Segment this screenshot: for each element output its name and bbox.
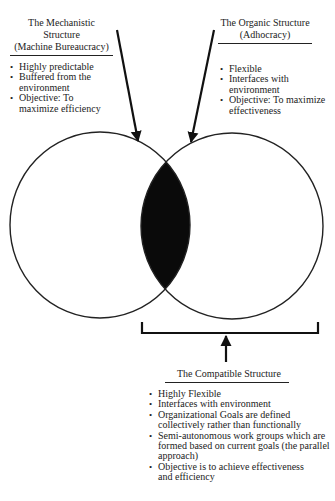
list-item: •Objective: To maximize efficiency — [10, 93, 110, 114]
compatible-title-text: The Compatible Structure — [177, 368, 279, 380]
bullet-icon: • — [149, 399, 152, 409]
list-item: •Buffered from the environment — [10, 72, 110, 93]
mechanistic-title: The Mechanistic Structure (Machine Burea… — [10, 17, 113, 56]
compatible-list: •Highly Flexible •Interfaces with enviro… — [149, 389, 335, 483]
list-item: •Objective: To maximize effectiveness — [220, 95, 333, 116]
bullet-icon: • — [10, 93, 13, 103]
bullet-icon: • — [10, 72, 13, 82]
bullet-icon: • — [149, 462, 152, 472]
list-item: •Semi-autonomous work groups which are f… — [149, 431, 330, 462]
list-item: •Organizational Goals are defined collec… — [149, 410, 316, 431]
bullet-icon: • — [149, 389, 152, 399]
list-item: •Interfaces with environment — [220, 74, 309, 95]
organic-arrow — [191, 30, 214, 142]
compatible-title-underline — [165, 382, 289, 383]
compatible-title: The Compatible Structure — [177, 368, 279, 383]
organic-title-line2: (Adhocracy) — [218, 29, 312, 41]
organic-list: •Flexible •Interfaces with environment •… — [220, 64, 330, 116]
list-item: •Objective is to achieve effectiveness a… — [149, 462, 318, 483]
bullet-icon: • — [220, 74, 223, 84]
bullet-icon: • — [220, 95, 223, 105]
mechanistic-title-line2: (Machine Bureaucracy) — [10, 41, 113, 53]
mechanistic-title-underline — [10, 55, 113, 56]
organic-title-line1: The Organic Structure — [218, 17, 312, 29]
bullet-icon: • — [10, 62, 13, 72]
mechanistic-arrow — [117, 30, 138, 141]
bullet-icon: • — [149, 431, 152, 441]
bullet-icon: • — [220, 64, 223, 74]
mechanistic-list: •Highly predictable •Buffered from the e… — [10, 62, 110, 114]
bullet-icon: • — [149, 410, 152, 420]
organic-title: The Organic Structure (Adhocracy) — [218, 17, 312, 44]
overlap-region — [141, 133, 323, 319]
compatible-bracket — [142, 322, 318, 333]
organic-title-underline — [218, 43, 312, 44]
mechanistic-title-line1: The Mechanistic Structure — [10, 17, 113, 41]
